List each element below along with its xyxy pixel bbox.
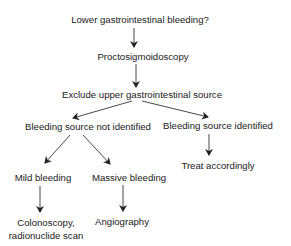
node-angiography: Angiography [95, 216, 149, 227]
node-source-not-identified: Bleeding source not identified [25, 121, 151, 132]
node-lower-gi-bleeding: Lower gastrointestinal bleeding? [71, 14, 209, 25]
arrow-not-identified-to-mild [45, 135, 70, 163]
arrow-exclude-to-identified [142, 101, 208, 117]
node-exclude-upper-gi: Exclude upper gastrointestinal source [62, 89, 222, 100]
node-colonoscopy: Colonoscopy, radionuclide scan [9, 217, 84, 241]
node-massive-bleeding: Massive bleeding [92, 172, 166, 183]
node-treat-accordingly: Treat accordingly [181, 160, 254, 171]
arrow-not-identified-to-massive [83, 135, 110, 164]
node-mild-bleeding: Mild bleeding [15, 172, 72, 183]
arrow-exclude-to-not-identified [73, 101, 132, 118]
node-proctosigmoidoscopy: Proctosigmoidoscopy [97, 51, 188, 62]
node-source-identified: Bleeding source identified [163, 120, 273, 131]
colonoscopy-line-1: Colonoscopy, [9, 217, 84, 228]
colonoscopy-line-2: radionuclide scan [9, 230, 84, 241]
